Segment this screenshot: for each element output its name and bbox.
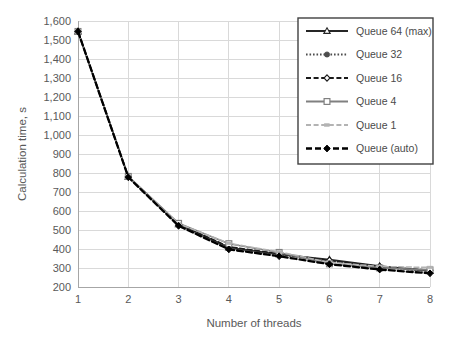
y-axis-tick-label: 1,200 bbox=[43, 91, 71, 103]
legend-label: Queue 4 bbox=[356, 95, 396, 107]
y-axis-tick-label: 500 bbox=[53, 224, 71, 236]
y-axis-tick-label: 300 bbox=[53, 262, 71, 274]
y-axis-tick-label: 1,000 bbox=[43, 129, 71, 141]
y-axis-tick-label: 1,600 bbox=[43, 15, 71, 27]
y-axis-tick-label: 800 bbox=[53, 167, 71, 179]
y-axis-title: Calculation time, s bbox=[16, 107, 28, 201]
legend-label: Queue 1 bbox=[356, 119, 396, 131]
chart-legend: Queue 64 (max)Queue 32Queue 16Queue 4Que… bbox=[298, 18, 433, 164]
data-point-marker bbox=[324, 99, 330, 105]
x-axis-tick-label: 3 bbox=[176, 293, 182, 305]
x-axis-tick-label: 6 bbox=[326, 293, 332, 305]
legend-label: Queue (auto) bbox=[356, 142, 418, 154]
legend-label: Queue 64 (max) bbox=[356, 25, 432, 37]
x-axis-tick-label: 2 bbox=[125, 293, 131, 305]
legend-label: Queue 32 bbox=[356, 48, 402, 60]
line-chart: 2003004005006007008009001,0001,1001,2001… bbox=[0, 0, 451, 352]
x-axis-title: Number of threads bbox=[206, 317, 301, 329]
y-axis-tick-label: 700 bbox=[53, 186, 71, 198]
x-axis-tick-label: 4 bbox=[226, 293, 232, 305]
y-axis-tick-label: 400 bbox=[53, 243, 71, 255]
x-axis-tick-label: 5 bbox=[276, 293, 282, 305]
data-point-marker bbox=[428, 266, 433, 269]
data-point-marker bbox=[226, 242, 231, 245]
chart-figure: 2003004005006007008009001,0001,1001,2001… bbox=[0, 0, 451, 352]
legend-label: Queue 16 bbox=[356, 72, 402, 84]
y-axis-tick-label: 200 bbox=[53, 281, 71, 293]
x-axis-tick-label: 8 bbox=[427, 293, 433, 305]
y-axis-tick-label: 1,400 bbox=[43, 53, 71, 65]
y-axis-tick-label: 1,300 bbox=[43, 72, 71, 84]
data-point-marker bbox=[324, 52, 329, 57]
x-axis-tick-label: 7 bbox=[377, 293, 383, 305]
y-axis-tick-label: 1,100 bbox=[43, 110, 71, 122]
y-axis-tick-label: 1,500 bbox=[43, 34, 71, 46]
data-point-marker bbox=[325, 124, 330, 127]
y-axis-tick-label: 900 bbox=[53, 148, 71, 160]
x-axis-tick-label: 1 bbox=[75, 293, 81, 305]
y-axis-tick-label: 600 bbox=[53, 205, 71, 217]
